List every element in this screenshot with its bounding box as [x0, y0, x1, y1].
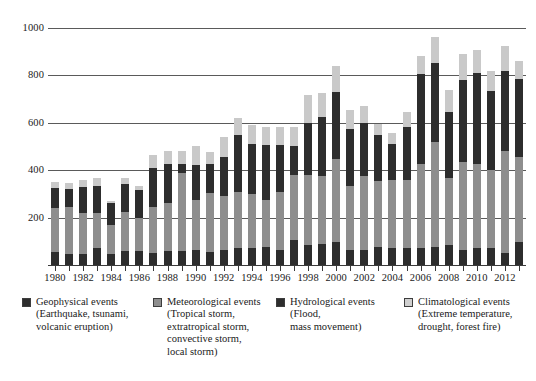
bar-segment	[515, 157, 523, 242]
x-tick-2002	[364, 266, 365, 271]
bar-group[interactable]	[374, 124, 382, 265]
bar-segment	[388, 144, 396, 180]
bar-segment	[332, 92, 340, 160]
bar-segment	[318, 117, 326, 176]
bar-group[interactable]	[51, 182, 59, 265]
bar-group[interactable]	[220, 137, 228, 265]
bar-segment	[220, 250, 228, 265]
bar-segment	[290, 127, 298, 146]
bar-group[interactable]	[107, 201, 115, 265]
bar-group[interactable]	[445, 90, 453, 265]
bar-segment	[164, 151, 172, 164]
bar-group[interactable]	[262, 127, 270, 265]
x-tick-2010	[477, 266, 478, 271]
bar-segment	[403, 180, 411, 249]
bar-segment	[248, 248, 256, 265]
bar-segment	[262, 127, 270, 145]
legend-item-hydrological[interactable]: Hydrological events (Flood, mass movemen…	[276, 296, 396, 333]
x-tick-1997	[294, 266, 295, 271]
bar-group[interactable]	[417, 56, 425, 265]
x-tick-1992	[224, 266, 225, 271]
bar-group[interactable]	[121, 178, 129, 265]
bar-group[interactable]	[234, 118, 242, 265]
bar-segment	[501, 71, 509, 152]
bar-segment	[220, 196, 228, 249]
bar-segment	[318, 244, 326, 265]
bar-segment	[360, 250, 368, 265]
x-tick-2001	[350, 266, 351, 271]
bar-group[interactable]	[206, 152, 214, 265]
bar-segment	[178, 164, 186, 172]
x-tick-1986	[139, 266, 140, 271]
bar-segment	[403, 112, 411, 127]
bar-segment	[65, 207, 73, 254]
y-tick-label-400: 400	[8, 165, 44, 175]
bar-segment	[234, 248, 242, 265]
bar-segment	[445, 245, 453, 265]
bar-segment	[220, 137, 228, 157]
legend-label-meteorological: Meteorological events (Tropical storm, e…	[167, 296, 261, 358]
legend-item-geophysical[interactable]: Geophysical events (Earthquake, tsunami,…	[22, 296, 150, 333]
bar-group[interactable]	[501, 46, 509, 265]
bar-segment	[149, 253, 157, 265]
x-tick-1995	[266, 266, 267, 271]
bar-group[interactable]	[332, 66, 340, 265]
bar-segment	[192, 146, 200, 165]
bar-segment	[135, 218, 143, 251]
bar-segment	[304, 175, 312, 245]
x-tick-2003	[378, 266, 379, 271]
bar-segment	[403, 248, 411, 265]
bar-group[interactable]	[276, 127, 284, 265]
bar-group[interactable]	[459, 54, 467, 265]
bar-segment	[164, 251, 172, 265]
x-tick-2013	[519, 266, 520, 271]
bar-segment	[459, 250, 467, 265]
bar-segment	[93, 213, 101, 249]
bar-group[interactable]	[164, 151, 172, 265]
bar-segment	[248, 194, 256, 249]
bar-segment	[178, 173, 186, 251]
bar-segment	[487, 91, 495, 170]
bar-segment	[65, 254, 73, 265]
bar-segment	[388, 180, 396, 249]
bar-group[interactable]	[403, 112, 411, 265]
bar-segment	[374, 124, 382, 135]
bar-group[interactable]	[431, 37, 439, 265]
bar-group[interactable]	[346, 110, 354, 265]
y-tick-label-1000: 1000	[8, 23, 44, 33]
bar-group[interactable]	[388, 133, 396, 265]
bar-segment	[164, 164, 172, 203]
bar-group[interactable]	[93, 178, 101, 265]
bar-segment	[487, 71, 495, 91]
bar-group[interactable]	[304, 95, 312, 265]
bar-segment	[206, 252, 214, 265]
x-tick-1998	[308, 266, 309, 271]
bar-segment	[121, 212, 129, 251]
bar-group[interactable]	[487, 71, 495, 265]
bar-group[interactable]	[149, 155, 157, 265]
legend-item-climatological[interactable]: Climatological events (Extreme temperatu…	[404, 296, 530, 333]
bar-group[interactable]	[360, 106, 368, 265]
bar-group[interactable]	[290, 127, 298, 265]
x-tick-2004	[392, 266, 393, 271]
legend-item-meteorological[interactable]: Meteorological events (Tropical storm, e…	[153, 296, 271, 358]
x-tick-1999	[322, 266, 323, 271]
bar-group[interactable]	[473, 50, 481, 265]
bar-segment	[318, 93, 326, 117]
x-tick-2006	[421, 266, 422, 271]
bar-group[interactable]	[515, 61, 523, 265]
bar-segment	[206, 193, 214, 252]
bar-group[interactable]	[65, 183, 73, 265]
bar-segment	[515, 79, 523, 157]
bar-segment	[459, 162, 467, 250]
x-tick-1981	[69, 266, 70, 271]
x-tick-2005	[407, 266, 408, 271]
bar-group[interactable]	[318, 93, 326, 265]
bar-group[interactable]	[79, 180, 87, 265]
bar-group[interactable]	[135, 186, 143, 265]
bar-group[interactable]	[178, 151, 186, 265]
bar-segment	[332, 242, 340, 265]
bar-group[interactable]	[248, 125, 256, 265]
bar-segment	[374, 135, 382, 181]
bar-group[interactable]	[192, 146, 200, 265]
